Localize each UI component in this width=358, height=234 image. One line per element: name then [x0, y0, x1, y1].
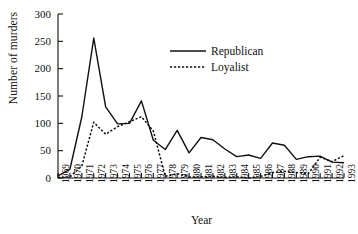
- x-tick-label: 1972: [98, 164, 108, 183]
- y-tick-label: 300: [23, 9, 51, 20]
- y-tick-label: 0: [23, 173, 51, 184]
- x-tick-label: 1976: [145, 164, 155, 183]
- x-tick-label: 1978: [169, 164, 179, 183]
- axis-lines: [58, 14, 344, 178]
- x-tick-label: 1988: [288, 164, 298, 183]
- series-line-republican: [58, 38, 344, 176]
- tick-marks: [58, 14, 344, 178]
- legend-sample-lines: [170, 51, 206, 67]
- x-axis-label: Year: [58, 214, 345, 226]
- y-tick-label: 250: [23, 36, 51, 47]
- x-tick-label: 1981: [205, 164, 215, 183]
- data-series-layer: [58, 38, 344, 178]
- y-tick-label: 150: [23, 91, 51, 102]
- x-tick-label: 1990: [312, 164, 322, 183]
- x-tick-label: 1979: [181, 164, 191, 183]
- y-tick-label: 200: [23, 63, 51, 74]
- x-tick-label: 1984: [241, 164, 251, 183]
- legend-label-loyalist: Loyalist: [211, 61, 249, 73]
- x-tick-label: 1987: [277, 164, 287, 183]
- y-tick-label: 100: [23, 118, 51, 129]
- x-tick-label: 1977: [157, 164, 167, 183]
- x-tick-label: 1982: [217, 164, 227, 183]
- legend-label-republican: Republican: [211, 45, 263, 57]
- x-tick-label: 1989: [300, 164, 310, 183]
- x-tick-label: 1992: [336, 164, 346, 183]
- x-tick-label: 1969: [62, 164, 72, 183]
- y-tick-label: 50: [23, 145, 51, 156]
- x-tick-label: 1985: [253, 164, 263, 183]
- x-tick-label: 1975: [134, 164, 144, 183]
- x-tick-label: 1991: [324, 164, 334, 183]
- y-axis-label: Number of murders: [7, 0, 19, 133]
- x-tick-label: 1974: [122, 164, 132, 183]
- x-tick-label: 1970: [74, 164, 84, 183]
- x-tick-label: 1973: [110, 164, 120, 183]
- x-tick-label: 1971: [86, 164, 96, 183]
- x-tick-label: 1983: [229, 164, 239, 183]
- x-tick-label: 1993: [348, 164, 358, 183]
- x-tick-label: 1980: [193, 164, 203, 183]
- x-tick-label: 1986: [265, 164, 275, 183]
